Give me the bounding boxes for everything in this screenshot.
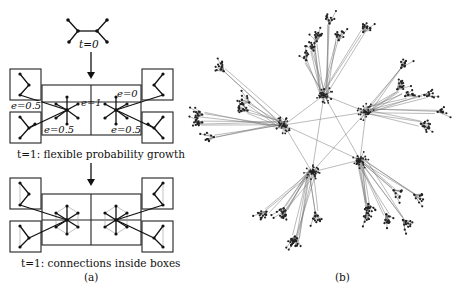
label-e-left-top: e=0.5 xyxy=(11,100,41,111)
side-graph-tr-2 xyxy=(152,181,164,206)
arrow-down-icon xyxy=(87,163,95,186)
side-graph-bl-2 xyxy=(18,224,30,248)
panel-b: (b) xyxy=(188,10,451,283)
label-e-center: e=1 xyxy=(81,97,102,108)
side-graph-tl-2 xyxy=(18,181,30,206)
label-t0: t=0 xyxy=(79,38,99,50)
figure-canvas: t=0 xyxy=(0,0,469,291)
side-graph-tr xyxy=(152,72,164,96)
arrow-down-icon xyxy=(87,52,95,79)
subfigure-label-b: (b) xyxy=(335,271,350,283)
step2-diagram xyxy=(10,178,173,252)
side-graph-br xyxy=(146,115,164,139)
side-graph-tl xyxy=(18,72,30,96)
label-e-right-top: e=0 xyxy=(117,88,138,99)
caption-step1: t=1: flexible probability growth xyxy=(17,148,185,160)
step1-diagram: e=0.5 e=1 e=0 e=0.5 e=0.5 xyxy=(10,69,173,143)
caption-step2: t=1: connections inside boxes xyxy=(21,257,181,269)
network-nodes xyxy=(188,10,451,251)
label-e-right-bottom: e=0.5 xyxy=(111,124,141,135)
panel-a: t=0 xyxy=(10,18,185,283)
side-graph-br-2 xyxy=(152,224,164,248)
subfigure-label-a: (a) xyxy=(84,271,98,283)
label-e-left-bottom: e=0.5 xyxy=(44,124,74,135)
side-graph-bl xyxy=(18,115,36,139)
network-edges xyxy=(189,11,450,250)
